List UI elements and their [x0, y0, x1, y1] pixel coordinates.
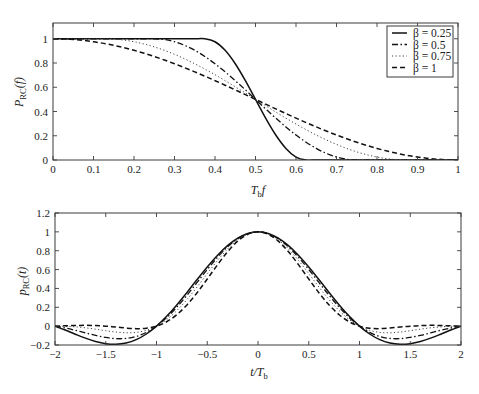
- y-tick-label: 0.2: [34, 130, 48, 142]
- x-tick-label: 0.7: [330, 163, 344, 175]
- x-axis-label: t/Tb: [250, 365, 268, 381]
- curve-dashdot: [55, 232, 461, 339]
- x-tick-label: 0.8: [370, 163, 384, 175]
- y-tick-label: 0.2: [36, 301, 50, 313]
- x-tick-label: 0.1: [87, 163, 101, 175]
- y-tick-label: 0.8: [34, 57, 48, 69]
- x-tick-label: 0.5: [302, 348, 316, 360]
- legend-label: β = 1: [413, 62, 437, 75]
- y-tick-label: 1: [45, 226, 51, 238]
- x-tick-label: 0.4: [208, 163, 222, 175]
- x-tick-label: −1: [151, 348, 163, 360]
- x-tick-label: 0.5: [249, 163, 263, 175]
- x-tick-label: −2: [49, 348, 61, 360]
- x-axis-label-tail: f: [262, 183, 267, 197]
- x-tick-label: 0: [255, 348, 261, 360]
- y-tick-label: 0.6: [34, 81, 48, 93]
- impulse-response-chart: −2−1.5−1−0.500.511.52−0.200.20.40.60.811…: [15, 207, 464, 381]
- x-tick-label: −0.5: [197, 348, 217, 360]
- x-tick-label: 0.2: [127, 163, 141, 175]
- y-tick-label: −0.2: [30, 339, 50, 351]
- y-tick-label: 1: [43, 33, 49, 45]
- plot-area: [55, 232, 461, 344]
- y-tick-label: 0.4: [34, 106, 48, 118]
- x-tick-label: 1: [357, 348, 363, 360]
- plot-frame: [55, 213, 461, 345]
- legend: β = 0.25 β = 0.5 β = 0.75 β = 1: [387, 26, 453, 77]
- x-tick-label: 1: [455, 163, 461, 175]
- x-tick-label: 1.5: [403, 348, 417, 360]
- x-tick-label: 0.9: [411, 163, 425, 175]
- y-axis-label-tail: (f): [12, 77, 26, 88]
- curve-dashed: [55, 232, 461, 329]
- y-axis-label-subscript: RC: [18, 88, 28, 100]
- y-axis-label-subscript: RC: [21, 278, 31, 290]
- frequency-response-chart: 00.10.20.30.40.50.60.70.80.9100.20.40.60…: [12, 23, 461, 199]
- y-axis-label: PRC(f): [12, 77, 28, 108]
- x-axis-label-subscript: b: [264, 371, 268, 381]
- y-tick-label: 0.4: [36, 282, 50, 294]
- y-axis-label-main: p: [15, 289, 29, 296]
- y-axis-label: pRC(t): [15, 267, 31, 297]
- x-tick-label: 0.3: [168, 163, 182, 175]
- curve-dotted: [55, 232, 461, 333]
- y-tick-label: 1.2: [36, 207, 50, 219]
- figure: 00.10.20.30.40.50.60.70.80.9100.20.40.60…: [0, 0, 479, 394]
- x-tick-label: 0: [50, 163, 56, 175]
- y-tick-label: 0.8: [36, 245, 50, 257]
- y-tick-label: 0.6: [36, 264, 50, 276]
- axis-ticks: −2−1.5−1−0.500.511.52−0.200.20.40.60.811…: [30, 207, 464, 360]
- y-tick-label: 0: [45, 320, 51, 332]
- x-axis-label: Tbf: [251, 183, 267, 199]
- x-tick-label: 0.6: [289, 163, 303, 175]
- y-axis-label-tail: (t): [15, 267, 29, 278]
- x-tick-label: 2: [458, 348, 464, 360]
- x-tick-label: −1.5: [96, 348, 116, 360]
- y-tick-label: 0: [43, 154, 49, 166]
